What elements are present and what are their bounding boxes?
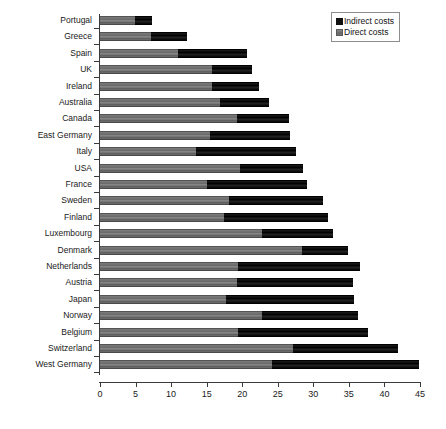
- bar-segment-direct-costs: [100, 147, 196, 156]
- bar-row: [100, 344, 398, 353]
- bar-row: [100, 262, 360, 271]
- y-axis-label-switzerland: Switzerland: [0, 344, 92, 353]
- y-axis-label-greece: Greece: [0, 32, 92, 41]
- y-axis-label-belgium: Belgium: [0, 328, 92, 337]
- y-axis-label-ireland: Ireland: [0, 82, 92, 91]
- bar-segment-direct-costs: [100, 180, 207, 189]
- bar-row: [100, 98, 269, 107]
- bar-row: [100, 246, 348, 255]
- bar-segment-direct-costs: [100, 49, 178, 58]
- bar-row: [100, 82, 259, 91]
- y-axis-label-australia: Australia: [0, 98, 92, 107]
- bar-segment-indirect-costs: [220, 98, 269, 107]
- bar-row: [100, 49, 247, 58]
- y-axis-tick: [94, 258, 100, 259]
- y-axis-label-japan: Japan: [0, 295, 92, 304]
- bar-segment-indirect-costs: [207, 180, 307, 189]
- bar-row: [100, 114, 289, 123]
- bar-row: [100, 65, 252, 74]
- bar-row: [100, 32, 187, 41]
- bar-segment-indirect-costs: [237, 278, 354, 287]
- bar-segment-direct-costs: [100, 213, 224, 222]
- x-axis-tick: [207, 382, 208, 387]
- y-axis-tick: [94, 372, 100, 373]
- y-axis-tick: [94, 159, 100, 160]
- y-axis-tick: [94, 110, 100, 111]
- x-axis-tick-label-5: 5: [133, 389, 138, 399]
- bar-segment-direct-costs: [100, 16, 135, 25]
- bar-segment-indirect-costs: [229, 196, 322, 205]
- y-axis-label-sweden: Sweden: [0, 196, 92, 205]
- bar-segment-direct-costs: [100, 278, 237, 287]
- bar-segment-direct-costs: [100, 164, 240, 173]
- bar-row: [100, 328, 368, 337]
- y-axis-tick: [94, 290, 100, 291]
- y-axis-tick: [94, 176, 100, 177]
- bar-segment-indirect-costs: [224, 213, 329, 222]
- bar-segment-direct-costs: [100, 344, 293, 353]
- y-axis-tick: [94, 356, 100, 357]
- y-axis-tick: [94, 61, 100, 62]
- x-axis-tick: [349, 382, 350, 387]
- x-axis-tick-label-10: 10: [166, 389, 176, 399]
- x-axis-tick-label-20: 20: [237, 389, 247, 399]
- legend-label-indirect-costs: Indirect costs: [344, 16, 394, 27]
- y-axis-label-denmark: Denmark: [0, 246, 92, 255]
- x-axis-tick-label-0: 0: [97, 389, 102, 399]
- bar-segment-indirect-costs: [302, 246, 348, 255]
- y-axis-label-austria: Austria: [0, 278, 92, 287]
- y-axis-tick: [94, 94, 100, 95]
- bar-segment-indirect-costs: [151, 32, 187, 41]
- bar-segment-direct-costs: [100, 328, 238, 337]
- x-axis-tick-label-35: 35: [344, 389, 354, 399]
- x-axis-tick: [278, 382, 279, 387]
- y-axis-label-uk: UK: [0, 65, 92, 74]
- x-axis-tick-label-45: 45: [415, 389, 425, 399]
- x-axis-tick-label-30: 30: [308, 389, 318, 399]
- legend-item-indirect-costs: Indirect costs: [336, 16, 394, 27]
- bar-row: [100, 147, 296, 156]
- y-axis-label-canada: Canada: [0, 114, 92, 123]
- bar-segment-direct-costs: [100, 295, 226, 304]
- bar-segment-indirect-costs: [212, 65, 252, 74]
- y-axis-tick: [94, 126, 100, 127]
- y-axis-tick: [94, 192, 100, 193]
- bar-segment-indirect-costs: [210, 131, 290, 140]
- bar-segment-direct-costs: [100, 65, 212, 74]
- bar-row: [100, 16, 152, 25]
- bar-row: [100, 196, 323, 205]
- bar-segment-indirect-costs: [238, 328, 368, 337]
- bar-row: [100, 131, 290, 140]
- y-axis-tick: [94, 241, 100, 242]
- y-axis-category-labels: PortugalGreeceSpainUKIrelandAustraliaCan…: [0, 14, 92, 375]
- black-square-icon: [336, 18, 343, 25]
- y-axis-label-portugal: Portugal: [0, 16, 92, 25]
- bar-segment-indirect-costs: [226, 295, 354, 304]
- bar-row: [100, 295, 354, 304]
- bar-segment-direct-costs: [100, 360, 272, 369]
- chart-legend: Indirect costs Direct costs: [331, 12, 400, 42]
- bar-segment-indirect-costs: [238, 262, 360, 271]
- y-axis-tick: [94, 208, 100, 209]
- x-axis-tick: [313, 382, 314, 387]
- x-axis-line: [99, 382, 421, 383]
- x-axis-tick-label-15: 15: [202, 389, 212, 399]
- y-axis-tick: [94, 44, 100, 45]
- bar-segment-indirect-costs: [262, 229, 333, 238]
- bar-segment-indirect-costs: [272, 360, 418, 369]
- y-axis-tick: [94, 274, 100, 275]
- bar-row: [100, 213, 328, 222]
- y-axis-label-finland: Finland: [0, 213, 92, 222]
- legend-label-direct-costs: Direct costs: [344, 27, 388, 38]
- legend-item-direct-costs: Direct costs: [336, 27, 394, 38]
- bar-row: [100, 360, 419, 369]
- bar-segment-direct-costs: [100, 82, 212, 91]
- y-axis-label-east-germany: East Germany: [0, 131, 92, 140]
- bar-row: [100, 311, 358, 320]
- y-axis-label-west-germany: West Germany: [0, 360, 92, 369]
- bar-segment-indirect-costs: [237, 114, 289, 123]
- bar-segment-direct-costs: [100, 229, 262, 238]
- y-axis-label-spain: Spain: [0, 49, 92, 58]
- bar-segment-direct-costs: [100, 131, 210, 140]
- chart-container: PortugalGreeceSpainUKIrelandAustraliaCan…: [0, 0, 446, 429]
